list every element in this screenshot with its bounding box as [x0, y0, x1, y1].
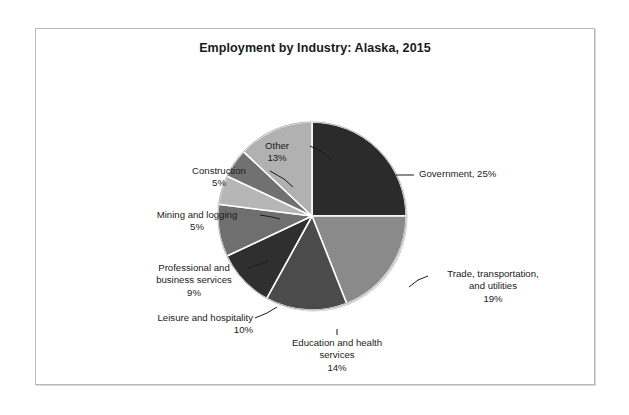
chart-title: Employment by Industry: Alaska, 2015	[36, 41, 594, 55]
chart-frame: Employment by Industry: Alaska, 2015	[35, 28, 595, 385]
slice-label-government: Government, 25%	[419, 168, 496, 180]
slice-label-professional: Professional and business services 9%	[142, 262, 246, 299]
slice-label-trade: Trade, transportation, and utilities 19%	[431, 268, 555, 305]
pie-slice-government[interactable]	[312, 122, 406, 216]
leader-trade	[409, 276, 428, 287]
scanned-page: Employment by Industry: Alaska, 2015	[0, 0, 629, 415]
slice-label-construction: Construction 5%	[170, 165, 268, 190]
slice-label-education: Education and health services 14%	[270, 337, 404, 374]
slice-label-leisure: Leisure and hospitality 10%	[131, 312, 253, 337]
slice-label-other: Other 13%	[246, 140, 308, 165]
slice-label-mining: Mining and logging 5%	[136, 209, 258, 234]
